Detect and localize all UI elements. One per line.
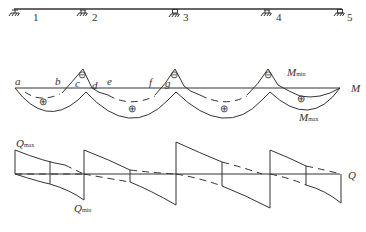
support-2-icon — [77, 10, 88, 16]
negative-sign-1: ⊖ — [78, 70, 86, 80]
positive-sign-1: ⊕ — [39, 97, 47, 107]
positive-sign-2: ⊕ — [128, 104, 136, 114]
shear-min-label: Qmin — [74, 203, 91, 214]
moment-min-subscript: min — [296, 71, 305, 77]
support-1-icon — [9, 10, 20, 16]
support-5-icon — [334, 10, 345, 17]
shear-min-subscript: min — [82, 207, 91, 213]
support-label-5: 5 — [347, 12, 353, 23]
moment-min-dashed — [25, 92, 247, 102]
moment-max-subscript: max — [308, 116, 318, 122]
moment-max-label: Mmax — [299, 112, 319, 123]
support-label-2: 2 — [92, 12, 98, 23]
point-label-d: d — [92, 80, 98, 91]
moment-max-symbol: M — [299, 111, 308, 123]
moment-min-label: Mmin — [287, 67, 306, 78]
shear-axis-label: Q — [348, 170, 356, 181]
shear-max-subscript: max — [24, 142, 34, 148]
point-label-b: b — [55, 76, 61, 87]
shear-max-label: Qmax — [16, 138, 34, 149]
support-label-3: 3 — [183, 12, 189, 23]
moment-min-symbol: M — [287, 66, 296, 78]
positive-sign-3: ⊕ — [220, 104, 228, 114]
positive-sign-4: ⊕ — [297, 94, 305, 104]
shear-span-3 — [222, 150, 341, 208]
point-label-a: a — [15, 76, 21, 87]
shear-max-symbol: Q — [16, 137, 24, 149]
support-3-icon — [169, 10, 180, 18]
shear-min-symbol: Q — [74, 202, 82, 214]
negative-sign-2: ⊖ — [170, 70, 178, 80]
support-label-1: 1 — [33, 12, 39, 23]
support-4-icon — [261, 10, 272, 16]
support-label-4: 4 — [276, 12, 282, 23]
point-label-f: f — [149, 77, 152, 88]
moment-axis-label: M — [351, 83, 360, 94]
negative-sign-3: ⊖ — [264, 70, 272, 80]
point-label-e: e — [107, 76, 112, 87]
shear-span-1 — [15, 150, 130, 200]
